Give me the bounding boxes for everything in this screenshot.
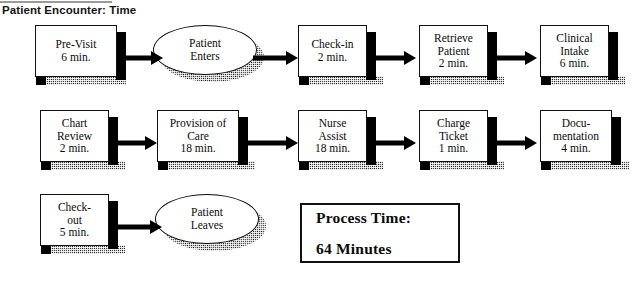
patient-enters-ellipse[interactable]: Patient Enters <box>153 25 257 75</box>
documentation-box[interactable]: Docu- mentation 4 min. <box>540 110 612 162</box>
retrieve-patient-box[interactable]: Retrieve Patient 2 min. <box>419 25 488 77</box>
charge-ticket-box[interactable]: Charge Ticket 1 min. <box>419 110 488 162</box>
box-shadow-nub <box>420 161 430 170</box>
nurse-assist-line-1: Nurse <box>319 117 346 130</box>
patient-enters-line-2: Enters <box>190 50 219 63</box>
arrow-right-icon-r3-a <box>112 219 162 235</box>
provision-of-care-line-1: Provision of <box>170 117 227 130</box>
arrow-right-icon-r1-d <box>491 50 537 66</box>
arrow-right-icon-r1-a <box>119 50 163 66</box>
process-time-summary-box: Process Time: 64 Minutes <box>300 203 460 263</box>
documentation-line-3: 4 min. <box>561 142 590 155</box>
arrow-right-icon-r2-a <box>112 135 157 151</box>
provision-of-care-line-3: 18 min. <box>180 142 215 155</box>
box-shadow-nub <box>420 76 430 85</box>
clinical-intake-line-3: 6 min. <box>560 57 589 70</box>
box-shadow-nub <box>299 161 309 170</box>
box-shadow-nub <box>299 76 309 85</box>
nurse-assist-line-2: Assist <box>318 130 346 143</box>
pre-visit-line-2: 6 min. <box>61 51 90 64</box>
box-bottom-shadow <box>40 76 126 85</box>
documentation-line-2: mentation <box>553 130 599 143</box>
arrow-right-icon-r2-b <box>242 135 298 151</box>
patient-enters-line-1: Patient <box>189 37 221 50</box>
arrow-right-icon-r2-c <box>370 135 416 151</box>
arrow-right-icon-r2-d <box>491 135 537 151</box>
retrieve-patient-line-1: Retrieve <box>434 32 473 45</box>
box-right-shadow <box>611 117 621 165</box>
patient-leaves-line-2: Leaves <box>191 219 224 232</box>
horizontal-rule-icon <box>0 1 112 3</box>
process-time-label: Process Time: <box>316 209 458 227</box>
clinical-intake-line-2: Intake <box>560 45 589 58</box>
retrieve-patient-line-2: Patient <box>438 45 470 58</box>
box-shadow-nub <box>41 161 51 170</box>
charge-ticket-line-2: Ticket <box>439 130 468 143</box>
documentation-line-1: Docu- <box>562 117 591 130</box>
patient-leaves-line-1: Patient <box>191 206 223 219</box>
nurse-assist-box[interactable]: Nurse Assist 18 min. <box>298 110 367 162</box>
arrow-right-icon-r1-b <box>253 50 298 66</box>
check-out-line-3: 5 min. <box>60 226 89 239</box>
chart-review-box[interactable]: Chart Review 2 min. <box>40 110 109 162</box>
check-out-line-2: out <box>67 214 82 227</box>
flowchart-canvas: Patient Encounter: Time Pre-Visit 6 min.… <box>0 0 632 290</box>
pre-visit-line-1: Pre-Visit <box>56 38 97 51</box>
pre-visit-box[interactable]: Pre-Visit 6 min. <box>35 25 117 77</box>
retrieve-patient-line-3: 2 min. <box>439 57 468 70</box>
charge-ticket-line-1: Charge <box>437 117 470 130</box>
box-shadow-nub <box>36 76 46 85</box>
box-shadow-nub <box>541 76 551 85</box>
chart-review-line-2: Review <box>57 130 92 143</box>
clinical-intake-box[interactable]: Clinical Intake 6 min. <box>540 25 609 77</box>
box-shadow-nub <box>158 161 168 170</box>
page-title: Patient Encounter: Time <box>2 4 136 16</box>
box-shadow-nub <box>541 161 551 170</box>
box-right-shadow <box>608 32 618 80</box>
check-in-box[interactable]: Check-in 2 min. <box>298 25 367 77</box>
chart-review-line-3: 2 min. <box>60 142 89 155</box>
box-shadow-nub <box>41 245 51 254</box>
arrow-right-icon-r1-c <box>370 50 416 66</box>
check-out-line-1: Check- <box>58 201 91 214</box>
process-time-value: 64 Minutes <box>316 240 458 258</box>
patient-leaves-ellipse[interactable]: Patient Leaves <box>155 194 259 244</box>
provision-of-care-box[interactable]: Provision of Care 18 min. <box>157 110 239 162</box>
clinical-intake-line-1: Clinical <box>556 32 592 45</box>
check-in-line-2: 2 min. <box>318 51 347 64</box>
charge-ticket-line-3: 1 min. <box>439 142 468 155</box>
check-out-box[interactable]: Check- out 5 min. <box>40 194 109 246</box>
chart-review-line-1: Chart <box>62 117 88 130</box>
nurse-assist-line-3: 18 min. <box>315 142 350 155</box>
provision-of-care-line-2: Care <box>187 130 209 143</box>
check-in-line-1: Check-in <box>311 38 353 51</box>
